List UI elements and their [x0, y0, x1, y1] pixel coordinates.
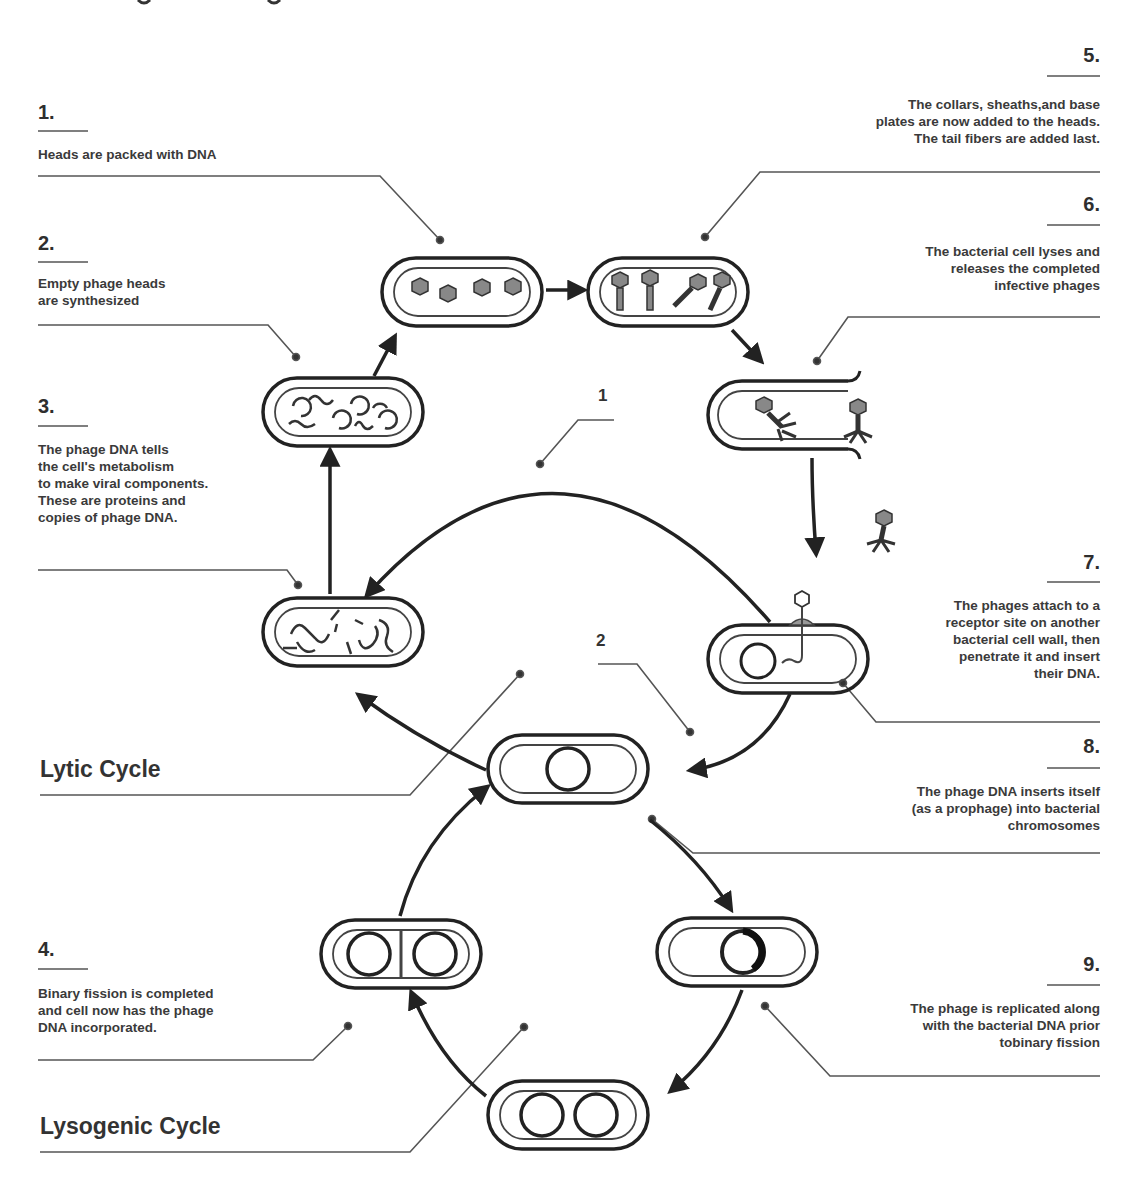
step-5-line: The collars, sheaths,and base — [876, 96, 1100, 113]
step-2-text: Empty phage heads are synthesized — [38, 275, 166, 309]
step-4-line: and cell now has the phage — [38, 1002, 214, 1019]
step-8-number: 8. — [1083, 735, 1100, 758]
step-9-text: The phage is replicated along with the b… — [910, 1000, 1100, 1051]
cell-empty-heads — [263, 378, 423, 446]
step-1-text: Heads are packed with DNA — [38, 146, 217, 163]
step-6-line: infective phages — [925, 277, 1100, 294]
arrow-g-to-i — [650, 820, 730, 908]
step-3-line: to make viral components. — [38, 475, 208, 492]
step-8-text: The phage DNA inserts itself (as a proph… — [912, 783, 1100, 834]
step-3-number: 3. — [38, 395, 55, 418]
step-9-line: with the bacterial DNA prior — [910, 1017, 1100, 1034]
step-2-number: 2. — [38, 232, 55, 255]
step-7-line: bacterial cell wall, then — [945, 631, 1100, 648]
step-3-line: The phage DNA tells — [38, 441, 208, 458]
cell-heads-packed — [382, 258, 542, 326]
step-7-line: their DNA. — [945, 665, 1100, 682]
step-4-line: DNA incorporated. — [38, 1019, 214, 1036]
step-6-line: releases the completed — [925, 260, 1100, 277]
step-7-text: The phages attach to a receptor site on … — [945, 597, 1100, 682]
cell-phage-replicating — [657, 918, 817, 986]
cell-prophage-inserted — [488, 735, 648, 803]
step-6-text: The bacterial cell lyses and releases th… — [925, 243, 1100, 294]
cell-two-chromosomes — [488, 1081, 648, 1149]
step-8-line: chromosomes — [912, 817, 1100, 834]
cell-tails-added — [588, 258, 748, 326]
step-2-line: are synthesized — [38, 292, 166, 309]
lytic-cycle-label: Lytic Cycle — [40, 756, 161, 783]
step-6-number: 6. — [1083, 193, 1100, 216]
arrow-c-to-a — [374, 338, 394, 376]
step-9-line: The phage is replicated along — [910, 1000, 1100, 1017]
free-phage-icon — [867, 510, 895, 552]
arrow-f-to-g — [692, 694, 790, 770]
step-5-text: The collars, sheaths,and base plates are… — [876, 96, 1100, 147]
arrow-b-to-d — [732, 330, 760, 360]
cell-viral-components — [263, 598, 423, 666]
step-6-line: The bacterial cell lyses and — [925, 243, 1100, 260]
step-5-line: The tail fibers are added last. — [876, 130, 1100, 147]
marker-2: 2 — [596, 631, 605, 651]
step-5-line: plates are now added to the heads. — [876, 113, 1100, 130]
step-3-line: copies of phage DNA. — [38, 509, 208, 526]
step-4-number: 4. — [38, 938, 55, 961]
step-9-line: tobinary fission — [910, 1034, 1100, 1051]
cutoff-title-fragment — [138, 0, 280, 3]
step-3-line: the cell's metabolism — [38, 458, 208, 475]
cell-binary-fission — [321, 920, 481, 988]
step-7-number: 7. — [1083, 551, 1100, 574]
cell-phage-attaching — [708, 591, 868, 693]
lysogenic-cycle-label: Lysogenic Cycle — [40, 1113, 221, 1140]
step-4-text: Binary fission is completed and cell now… — [38, 985, 214, 1036]
step-4-line: Binary fission is completed — [38, 985, 214, 1002]
step-7-line: penetrate it and insert — [945, 648, 1100, 665]
step-2-line: Empty phage heads — [38, 275, 166, 292]
step-8-line: The phage DNA inserts itself — [912, 783, 1100, 800]
arrow-i-to-j — [672, 990, 742, 1090]
step-1-number: 1. — [38, 101, 55, 124]
step-9-number: 9. — [1083, 953, 1100, 976]
marker-1: 1 — [598, 386, 607, 406]
step-1-line: Heads are packed with DNA — [38, 146, 217, 163]
step-3-line: These are proteins and — [38, 492, 208, 509]
arrow-lytic-main — [368, 494, 770, 622]
cell-lysing — [708, 371, 872, 459]
step-3-text: The phage DNA tells the cell's metabolis… — [38, 441, 208, 526]
arrow-d-to-f — [812, 458, 816, 552]
step-5-number: 5. — [1083, 44, 1100, 67]
step-7-line: receptor site on another — [945, 614, 1100, 631]
step-8-line: (as a prophage) into bacterial — [912, 800, 1100, 817]
step-7-line: The phages attach to a — [945, 597, 1100, 614]
arrow-h-to-g — [400, 788, 486, 916]
